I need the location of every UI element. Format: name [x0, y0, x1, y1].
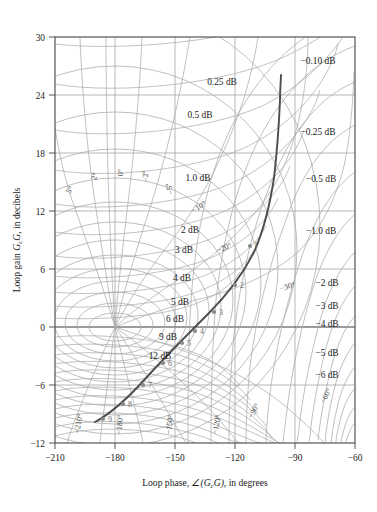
marker-label: 5 — [187, 339, 191, 348]
trajectory-marker-9 — [101, 417, 105, 421]
y-tick-label: 18 — [36, 149, 46, 159]
db-label: −0.10 dB — [301, 56, 336, 66]
y-axis-title-prefix: Loop gain — [11, 251, 22, 293]
trajectory-marker-5 — [180, 341, 184, 345]
marker-label: 7 — [148, 381, 152, 390]
marker-label: 8 — [128, 400, 132, 409]
marker-label: 1 — [254, 241, 258, 250]
db-label: −0.25 dB — [301, 127, 336, 137]
marker-label: 6 — [168, 359, 172, 368]
db-label: 6 dB — [166, 314, 184, 324]
db-label: 2 dB — [181, 225, 199, 235]
db-label: −5 dB — [315, 348, 338, 358]
phase-label: −180° — [114, 415, 124, 435]
db-label: −1.0 dB — [306, 226, 336, 236]
x-tick-label: −90 — [288, 453, 303, 463]
db-label: −0.5 dB — [306, 174, 336, 184]
db-label: 0.25 dB — [207, 77, 237, 87]
phase-label: −2° — [140, 170, 150, 183]
db-label: −2 dB — [315, 278, 338, 288]
marker-label: 2 — [240, 281, 244, 290]
trajectory-marker-7 — [141, 383, 145, 387]
db-label: 5 dB — [171, 297, 189, 307]
nichols-chart-figure: −210 −180 −150 −120 −90 −60 30 24 18 12 … — [0, 0, 377, 512]
x-tick-label: −180 — [105, 453, 125, 463]
y-tick-label: 0 — [40, 323, 45, 333]
db-label: −3 dB — [315, 301, 338, 311]
trajectory-marker-3 — [212, 310, 216, 314]
y-tick-label: 30 — [36, 33, 46, 43]
phase-label: 0° — [116, 169, 125, 177]
y-tick-label: 6 — [40, 265, 45, 275]
trajectory-marker-4 — [193, 329, 197, 333]
y-axis-title-symbol: G — [11, 244, 22, 251]
marker-label: 9 — [108, 415, 112, 424]
db-label: 1.0 dB — [185, 173, 210, 183]
marker-label: 4 — [200, 327, 204, 336]
x-axis-title-suffix: , in degrees — [224, 477, 268, 488]
db-label: 4 dB — [173, 273, 191, 283]
x-axis-title-symbol: ∠(G — [191, 477, 210, 489]
x-tick-label: −60 — [348, 453, 363, 463]
y-axis-title-suffix: , in decibels — [11, 187, 22, 233]
db-label: −6 dB — [315, 370, 338, 380]
y-tick-label: 12 — [36, 207, 46, 217]
trajectory-marker-6 — [161, 361, 165, 365]
x-tick-label: −210 — [45, 453, 65, 463]
y-tick-label: −6 — [35, 381, 45, 391]
trajectory-marker-2 — [233, 283, 237, 287]
trajectory-marker-8 — [121, 402, 125, 406]
x-axis-title-symbol-tail: G) — [214, 477, 224, 489]
x-axis-title-prefix: Loop phase, — [142, 477, 191, 488]
db-label: 0.5 dB — [187, 110, 212, 120]
chart-svg: −210 −180 −150 −120 −90 −60 30 24 18 12 … — [0, 0, 377, 512]
trajectory-marker-1 — [248, 244, 252, 248]
marker-label: 3 — [219, 308, 223, 317]
y-tick-label: 24 — [36, 91, 46, 101]
db-label: 3 dB — [175, 245, 193, 255]
y-axis-title-symbol-tail: G — [11, 234, 22, 241]
db-label: 9 dB — [159, 332, 177, 342]
y-tick-label: −12 — [30, 439, 45, 449]
db-label: −4 dB — [315, 319, 338, 329]
x-tick-label: −120 — [225, 453, 245, 463]
x-tick-label: −150 — [165, 453, 185, 463]
